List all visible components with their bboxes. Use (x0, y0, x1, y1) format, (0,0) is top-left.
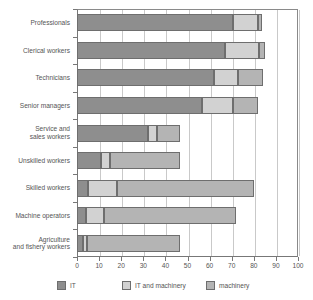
y-axis-label: Skilled workers (26, 184, 70, 192)
x-axis-tick-label: 100 (288, 262, 308, 269)
x-axis-tick (254, 257, 255, 261)
bar-segment (117, 180, 254, 197)
bar-row (77, 14, 298, 31)
bar-segment (77, 207, 86, 224)
x-axis-tick-label: 40 (155, 262, 175, 269)
legend-swatch-icon (122, 281, 131, 290)
x-axis-tick (232, 257, 233, 261)
bar-segment (214, 69, 238, 86)
bar-row (77, 180, 298, 197)
bar-segment (238, 69, 262, 86)
y-axis-label: Machine operators (15, 212, 70, 220)
y-axis-label: Unskilled workers (18, 157, 70, 165)
x-axis-tick (165, 257, 166, 261)
bar-segment (77, 97, 202, 114)
x-axis-tick (276, 257, 277, 261)
bar-segment (87, 235, 180, 252)
bars-layer (77, 9, 298, 257)
y-axis-label: Clerical workers (23, 47, 70, 55)
x-axis-tick-label: 20 (111, 262, 131, 269)
y-axis-label: Senior managers (20, 102, 70, 110)
bar-segment (77, 125, 148, 142)
legend-item[interactable]: IT and machinery (122, 281, 186, 290)
bar-segment (148, 125, 157, 142)
bar-segment (110, 152, 180, 169)
legend-label: machinery (219, 282, 249, 289)
legend-label: IT (70, 282, 76, 289)
bar-segment (259, 42, 265, 59)
bar-segment (88, 180, 117, 197)
x-axis-tick (99, 257, 100, 261)
x-axis-tick (188, 257, 189, 261)
x-axis-tick-label: 0 (67, 262, 87, 269)
bar-row (77, 69, 298, 86)
x-axis-tick-label: 10 (89, 262, 109, 269)
bar-segment (157, 125, 180, 142)
x-axis-tick-label: 60 (200, 262, 220, 269)
bar-segment (104, 207, 237, 224)
bar-segment (233, 97, 258, 114)
x-axis-tick (77, 257, 78, 261)
bar-segment (77, 42, 225, 59)
bar-row (77, 97, 298, 114)
legend-swatch-icon (57, 281, 66, 290)
bar-segment (202, 97, 233, 114)
legend-swatch-icon (206, 281, 215, 290)
legend-item[interactable]: machinery (206, 281, 249, 290)
chart-legend: ITIT and machinerymachinery (0, 281, 313, 296)
bar-segment (101, 152, 110, 169)
bar-segment (86, 207, 104, 224)
bar-row (77, 152, 298, 169)
y-axis-label: Technicians (36, 74, 70, 82)
x-axis-tick (143, 257, 144, 261)
bar-row (77, 125, 298, 142)
legend-label: IT and machinery (135, 282, 186, 289)
x-axis-tick-label: 90 (266, 262, 286, 269)
x-axis-tick-label: 70 (222, 262, 242, 269)
y-axis-category-labels: ProfessionalsClerical workersTechnicians… (0, 9, 74, 257)
x-axis-tick-label: 30 (133, 262, 153, 269)
x-axis-tick-label: 80 (244, 262, 264, 269)
x-axis-tick (121, 257, 122, 261)
x-axis-tick (210, 257, 211, 261)
legend-item[interactable]: IT (57, 281, 76, 290)
x-axis-tick-label: 50 (178, 262, 198, 269)
y-axis-label: Service andsales workers (30, 125, 70, 140)
y-axis-label: Agricultureand fishery workers (13, 236, 70, 251)
bar-segment (233, 14, 258, 31)
bar-segment (77, 69, 214, 86)
y-axis-label: Professionals (30, 19, 70, 27)
bar-segment (77, 14, 233, 31)
bar-segment (77, 180, 88, 197)
bar-row (77, 235, 298, 252)
bar-row (77, 207, 298, 224)
bar-row (77, 42, 298, 59)
bar-segment (225, 42, 259, 59)
gridline-100 (299, 10, 300, 256)
x-axis-tick (298, 257, 299, 261)
bar-segment (258, 14, 261, 31)
stacked-bar-chart: ProfessionalsClerical workersTechnicians… (0, 0, 313, 300)
bar-segment (77, 152, 101, 169)
